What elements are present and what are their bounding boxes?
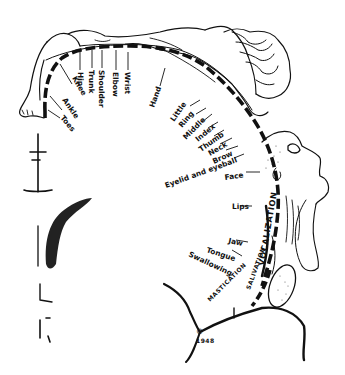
copyright-mark: © <box>196 327 203 336</box>
homunculus-diagram: Toes Ankle Knee Hip Trunk Shoulder Elbow… <box>0 0 345 375</box>
label-shoulder: Shoulder <box>97 70 106 108</box>
label-lips: Lips <box>232 202 250 211</box>
label-face: Face <box>224 170 244 182</box>
homunculus-svg: Toes Ankle Knee Hip Trunk Shoulder Elbow… <box>0 0 345 375</box>
label-wrist: Wrist <box>123 72 132 95</box>
label-jaw: Jaw <box>227 236 244 248</box>
copyright-year: 1948 <box>196 337 215 344</box>
insula-drawing <box>24 134 92 342</box>
label-trunk: Trunk <box>87 70 96 94</box>
label-hip: Hip <box>76 72 85 86</box>
label-hand: Hand <box>147 85 163 109</box>
label-elbow: Elbow <box>111 72 120 97</box>
body-part-labels: Toes Ankle Knee Hip Trunk Shoulder Elbow… <box>58 70 279 303</box>
